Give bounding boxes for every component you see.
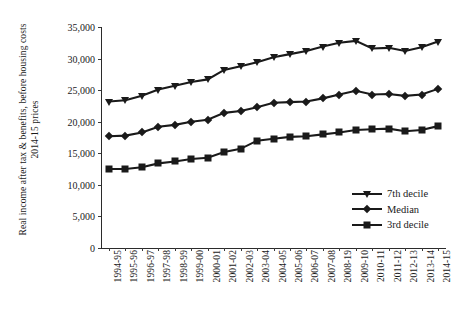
y-axis-title-line-2: 2014-15 prices [29, 5, 41, 255]
square-marker [221, 149, 228, 156]
legend-item[interactable]: Median [352, 202, 429, 218]
legend-key [352, 219, 382, 231]
y-tick-label: 10,000 [47, 179, 95, 190]
data-point [224, 113, 230, 119]
triangle-down-marker [335, 40, 343, 47]
diamond-icon [363, 205, 371, 213]
square-marker [402, 128, 409, 135]
y-tick-label: 35,000 [47, 22, 95, 33]
y-tick-mark [98, 248, 101, 249]
data-point [142, 96, 150, 103]
legend-item[interactable]: 3rd decile [352, 217, 429, 233]
data-point [208, 120, 214, 126]
data-point [290, 137, 297, 144]
data-point [405, 131, 412, 138]
x-tick-label: 1995-96 [129, 250, 139, 282]
square-marker [336, 129, 343, 136]
x-tick-label: 2009-10 [360, 250, 370, 282]
square-marker [237, 145, 244, 152]
legend-item[interactable]: 7th decile [352, 186, 429, 202]
data-point [389, 94, 395, 100]
x-tick-label: 2002-03 [245, 250, 255, 282]
data-point [191, 122, 197, 128]
data-point [125, 169, 132, 176]
data-point [208, 79, 216, 86]
chart-legend: 7th decileMedian3rd decile [352, 186, 429, 233]
square-icon [364, 221, 371, 228]
data-point [257, 62, 265, 69]
data-point [422, 95, 428, 101]
square-marker [254, 137, 261, 144]
data-point [438, 126, 445, 133]
square-marker [352, 126, 359, 133]
data-point [158, 163, 165, 170]
y-tick-label: 0 [47, 243, 95, 254]
y-tick-label: 30,000 [47, 53, 95, 64]
data-point [323, 47, 331, 54]
square-marker [418, 126, 425, 133]
data-point [208, 158, 215, 165]
triangle-down-marker [105, 99, 113, 106]
data-point [224, 70, 232, 77]
data-point [339, 43, 347, 50]
square-marker [270, 135, 277, 142]
legend-label: Median [387, 202, 419, 218]
data-point [306, 136, 313, 143]
data-point [372, 129, 379, 136]
data-point [306, 51, 314, 58]
data-point [422, 130, 429, 137]
data-point [389, 129, 396, 136]
x-tick-label: 1996-97 [146, 250, 156, 282]
square-marker [303, 133, 310, 140]
legend-key [352, 188, 382, 200]
x-tick-label: 2005-06 [294, 250, 304, 282]
square-marker [155, 160, 162, 167]
x-tick-label: 2000-01 [212, 250, 222, 282]
data-point [257, 141, 264, 148]
square-marker [319, 131, 326, 138]
x-tick-label: 2014-15 [442, 250, 452, 282]
x-tick-label: 2011-12 [393, 250, 403, 282]
data-point [241, 149, 248, 156]
data-point [109, 136, 115, 142]
data-point [125, 136, 131, 142]
legend-key [352, 203, 382, 215]
legend-label: 3rd decile [387, 217, 429, 233]
triangle-down-marker [418, 44, 426, 51]
triangle-down-marker [319, 44, 327, 51]
triangle-down-marker [204, 76, 212, 83]
x-tick-label: 2012-13 [409, 250, 419, 282]
x-tick-label: 2006-07 [310, 250, 320, 282]
data-point [109, 169, 116, 176]
line-chart: Real income after tax & benefits, before… [0, 0, 469, 312]
triangle-down-icon [363, 191, 371, 198]
data-point [405, 96, 411, 102]
data-point [257, 107, 263, 113]
data-point [389, 48, 397, 55]
data-point [109, 102, 117, 109]
data-point [372, 48, 380, 55]
data-point [191, 82, 199, 89]
data-point [438, 89, 444, 95]
data-point [422, 47, 430, 54]
data-point [290, 54, 298, 61]
triangle-down-marker [237, 63, 245, 70]
x-tick-label: 1998-99 [179, 250, 189, 282]
triangle-down-marker [220, 67, 228, 74]
triangle-down-marker [385, 45, 393, 52]
data-point [356, 130, 363, 137]
triangle-down-marker [187, 79, 195, 86]
triangle-down-marker [154, 87, 162, 94]
square-marker [106, 166, 113, 173]
legend-label: 7th decile [387, 186, 428, 202]
data-point [158, 127, 164, 133]
y-axis-title: Real income after tax & benefits, before… [18, 5, 41, 255]
data-point [339, 132, 346, 139]
data-point [405, 51, 413, 58]
data-point [241, 111, 247, 117]
square-marker [369, 126, 376, 133]
data-point [306, 102, 312, 108]
x-tick-label: 2013-14 [426, 250, 436, 282]
x-tick-label: 2010-11 [376, 250, 386, 282]
data-point [241, 66, 249, 73]
